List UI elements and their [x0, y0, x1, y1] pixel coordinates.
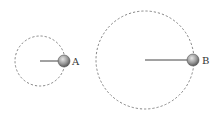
circular-motion-diagram: A B	[0, 0, 220, 121]
orbit-a: A	[15, 36, 80, 86]
orbit-b: B	[96, 11, 209, 109]
ball-b	[187, 54, 199, 66]
label-a: A	[71, 56, 80, 67]
ball-a	[58, 55, 70, 67]
label-b: B	[202, 55, 209, 66]
